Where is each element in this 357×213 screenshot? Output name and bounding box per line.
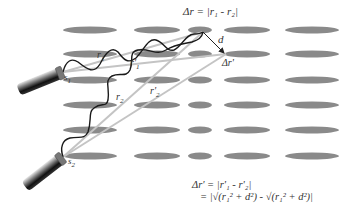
lattice-ellipses <box>63 27 339 160</box>
label-r1-prime: r'1 <box>130 58 140 71</box>
lattice-ellipse <box>224 102 270 109</box>
lattice-ellipse <box>63 102 117 109</box>
lattice-ellipse <box>224 27 270 34</box>
label-r2-prime-sub: 2 <box>156 91 160 99</box>
label-r1: r1 <box>97 50 104 63</box>
lattice-ellipse <box>285 102 339 109</box>
label-s1: s1 <box>64 73 71 85</box>
lattice-ellipse <box>224 77 270 84</box>
lattice-ellipse <box>285 77 339 84</box>
lattice-ellipse <box>285 51 339 58</box>
lattice-ellipse <box>285 127 339 134</box>
label-r1-prime-sub: 1 <box>136 63 140 71</box>
lattice-ellipse <box>285 27 339 34</box>
lattice-ellipse <box>134 77 180 84</box>
bottom-equation-line1: Δr' = |r'₁ - r'₂| <box>192 179 313 191</box>
lattice-ellipse <box>285 153 339 160</box>
lattice-ellipse <box>188 102 212 109</box>
lattice-ellipse <box>224 153 270 160</box>
label-r2-prime: r'2 <box>150 86 160 99</box>
lattice-ellipse <box>188 153 212 160</box>
bottom-equation: Δr' = |r'₁ - r'₂| = |√(r₁² + d²) - √(r₁²… <box>192 179 313 203</box>
label-s2: s2 <box>68 157 75 169</box>
lattice-ellipse <box>63 27 117 34</box>
label-r2-sub: 2 <box>120 97 124 105</box>
lattice-ellipse <box>188 77 212 84</box>
top-equation-label: Δr = |r₁ - r₂| <box>183 6 238 17</box>
bottom-equation-line2: = |√(r₁² + d²) - √(r₁² + d²)| <box>192 191 313 203</box>
label-d: d <box>218 34 224 45</box>
lattice-ellipse <box>134 153 180 160</box>
label-s2-sub: 2 <box>72 161 76 169</box>
emitter-s1 <box>16 66 65 96</box>
lattice-ellipse <box>224 127 270 134</box>
label-r2: r2 <box>116 92 123 105</box>
label-r1-sub: 1 <box>101 55 105 63</box>
label-s1-sub: 1 <box>68 77 72 85</box>
emitter-s2 <box>21 152 67 192</box>
lattice-ellipse <box>134 127 180 134</box>
lattice-ellipse <box>188 127 212 134</box>
label-delta-r-prime: Δr' <box>222 58 234 68</box>
lattice-ellipse <box>134 27 180 34</box>
